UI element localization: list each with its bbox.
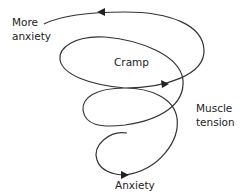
- label-more: More: [12, 15, 51, 29]
- label-cramp: Cramp: [114, 55, 149, 69]
- arrow-middle-icon: [161, 80, 169, 88]
- label-muscle-tension: Muscle tension: [196, 101, 235, 129]
- label-anxiety-top: anxiety: [12, 29, 51, 43]
- label-more-anxiety: More anxiety: [12, 15, 51, 43]
- label-anxiety: Anxiety: [115, 178, 155, 192]
- label-tension: tension: [196, 115, 235, 129]
- label-muscle: Muscle: [196, 101, 235, 115]
- arrow-top-icon: [97, 8, 105, 16]
- spiral-path: [44, 12, 204, 175]
